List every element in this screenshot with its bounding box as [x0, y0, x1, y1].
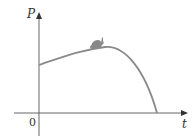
x-axis-arrow-icon: [181, 110, 188, 116]
population-graph: P t 0: [0, 0, 194, 138]
origin-label: 0: [29, 117, 36, 128]
x-axis-label: t: [182, 118, 187, 130]
population-curve: [39, 47, 157, 113]
y-axis-label: P: [27, 8, 35, 20]
y-axis-arrow-icon: [36, 12, 42, 19]
